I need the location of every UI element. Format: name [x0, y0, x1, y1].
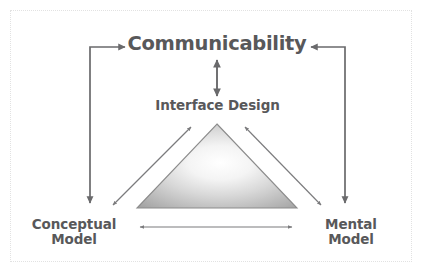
node-label-communicability: Communicability [112, 33, 322, 55]
connector-conceptual-to-communicability [90, 47, 125, 203]
node-label-conceptual-model: Conceptual Model [14, 217, 134, 247]
node-label-mental-model: Mental Model [296, 217, 406, 247]
node-label-interface-design: Interface Design [140, 98, 295, 113]
triangle-shape [137, 124, 297, 208]
diagram-canvas: Communicability Interface Design Concept… [0, 0, 425, 280]
connector-mental-to-communicability [311, 47, 345, 203]
